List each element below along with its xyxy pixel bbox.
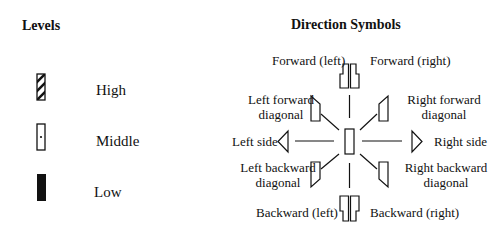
label-right-forward-diagonal-2: diagonal bbox=[396, 107, 492, 122]
label-right-backward-diagonal-1: Right backward bbox=[394, 160, 498, 175]
middle-level-icon bbox=[37, 124, 45, 150]
backward-symbol-icon bbox=[340, 196, 359, 221]
label-left-backward-diagonal-1: Left backward bbox=[233, 160, 323, 175]
label-right-backward-diagonal-2: diagonal bbox=[394, 175, 498, 190]
low-level-icon bbox=[37, 174, 46, 201]
right-side-icon bbox=[412, 131, 422, 152]
label-backward-right: Backward (right) bbox=[370, 205, 459, 220]
label-left-side: Left side bbox=[232, 134, 278, 149]
label-left-backward-diagonal-2: diagonal bbox=[233, 175, 323, 190]
right-forward-diagonal-icon bbox=[379, 96, 388, 121]
high-level-icon bbox=[35, 72, 47, 102]
label-forward-right: Forward (right) bbox=[370, 53, 451, 68]
center-symbol-icon bbox=[345, 129, 354, 154]
label-right-side: Right side bbox=[434, 134, 487, 149]
direction-symbols-title: Direction Symbols bbox=[291, 17, 401, 32]
label-backward-left: Backward (left) bbox=[256, 205, 338, 220]
label-left-forward-diagonal-1: Left forward bbox=[241, 92, 321, 107]
right-backward-diagonal-icon bbox=[379, 162, 388, 187]
label-forward-left: Forward (left) bbox=[272, 53, 345, 68]
label-right-forward-diagonal-1: Right forward bbox=[396, 92, 492, 107]
left-side-icon bbox=[278, 131, 288, 152]
label-left-forward-diagonal-2: diagonal bbox=[241, 107, 321, 122]
